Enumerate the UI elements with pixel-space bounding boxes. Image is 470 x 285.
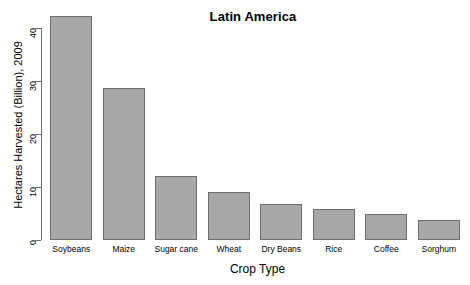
y-axis-title-container: Hectares Harvested (Billion), 2009: [7, 0, 29, 250]
bar[interactable]: [260, 204, 302, 240]
y-axis-tick-label: 0: [28, 240, 38, 270]
x-axis-tick-labels: SoybeansMaizeSugar caneWheatDry BeansRic…: [45, 244, 465, 254]
x-axis-tick-label: Rice: [308, 244, 361, 254]
bar[interactable]: [155, 176, 197, 240]
bar-series: [45, 14, 465, 240]
x-axis-tick-label: Dry Beans: [255, 244, 308, 254]
x-axis-tick-label: Soybeans: [45, 244, 98, 254]
y-axis-tick-label: 20: [28, 134, 38, 164]
bar-slot: [308, 14, 361, 240]
bar[interactable]: [313, 209, 355, 240]
bar-chart: Latin America Hectares Harvested (Billio…: [0, 0, 470, 285]
bar-slot: [413, 14, 466, 240]
bar[interactable]: [50, 16, 92, 240]
y-axis-line: [41, 28, 42, 240]
bar-slot: [45, 14, 98, 240]
y-axis-title: Hectares Harvested (Billion), 2009: [12, 41, 24, 209]
bar[interactable]: [365, 214, 407, 240]
x-axis-title: Crop Type: [45, 262, 470, 276]
bar[interactable]: [103, 88, 145, 240]
bar[interactable]: [208, 192, 250, 240]
bar[interactable]: [418, 220, 460, 240]
bar-slot: [255, 14, 308, 240]
x-axis-tick-label: Wheat: [203, 244, 256, 254]
x-axis-tick-label: Sugar cane: [150, 244, 203, 254]
bar-slot: [98, 14, 151, 240]
plot-area: [45, 14, 465, 240]
y-axis-tick-label: 40: [28, 28, 38, 58]
y-axis-tick-label: 10: [28, 187, 38, 217]
x-axis-tick-label: Sorghum: [413, 244, 466, 254]
x-axis-tick-label: Coffee: [360, 244, 413, 254]
bar-slot: [150, 14, 203, 240]
y-axis-tick-label: 30: [28, 81, 38, 111]
x-axis-tick-label: Maize: [98, 244, 151, 254]
bar-slot: [360, 14, 413, 240]
bar-slot: [203, 14, 256, 240]
